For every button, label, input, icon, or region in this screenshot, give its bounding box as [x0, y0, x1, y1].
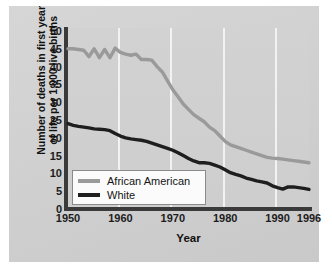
- y-axis-title-line-1: Number of deaths in first year: [35, 0, 47, 175]
- legend-swatch-white: [78, 193, 100, 197]
- series-line-african-american: [68, 48, 309, 163]
- x-axis-title: Year: [68, 232, 309, 244]
- legend-label-african-american: African American: [107, 176, 190, 187]
- x-tick-label: 1960: [108, 213, 132, 224]
- legend: African American White: [72, 170, 206, 205]
- infant-mortality-chart-figure: 50454035302520151050 1950196019701980199…: [0, 0, 332, 271]
- x-tick-label: 1950: [56, 213, 80, 224]
- y-axis-title-host: Number of deaths in first year of life p…: [14, 18, 58, 208]
- x-tick-label: 1990: [265, 213, 289, 224]
- legend-label-white: White: [107, 190, 135, 201]
- x-tick-label: 1980: [213, 213, 237, 224]
- x-tick-label: 1996: [297, 213, 321, 224]
- y-axis-title-line-2: of life per 1,000 live births: [47, 0, 59, 175]
- y-axis-title: Number of deaths in first year of life p…: [35, 0, 60, 175]
- x-tick-label: 1970: [161, 213, 185, 224]
- legend-item-african-american: African American: [78, 174, 200, 188]
- legend-swatch-african-american: [78, 179, 100, 183]
- legend-item-white: White: [78, 188, 200, 202]
